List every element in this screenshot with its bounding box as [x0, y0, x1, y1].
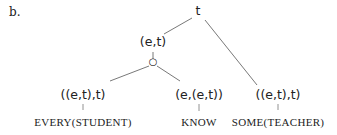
composition-operator-icon: ○	[149, 57, 158, 67]
edge-root-object	[205, 20, 257, 85]
verb-word: KNOW	[181, 117, 216, 128]
verb-type-node: (e,(e,t))	[175, 89, 223, 102]
edge-root-vp	[164, 18, 192, 34]
object-type-node: ((e,t),t)	[256, 89, 301, 102]
subject-type-node: ((e,t),t)	[61, 89, 106, 102]
object-word: SOME(TEACHER)	[232, 117, 325, 128]
subject-word: EVERY(STUDENT)	[34, 117, 132, 128]
tree-edges	[0, 0, 337, 135]
edge-compose-subject	[110, 66, 149, 81]
vp-type-node: (e,t)	[140, 36, 166, 49]
example-label: b.	[9, 6, 21, 18]
root-type-node: t	[196, 5, 201, 18]
edge-compose-verb	[157, 66, 180, 81]
